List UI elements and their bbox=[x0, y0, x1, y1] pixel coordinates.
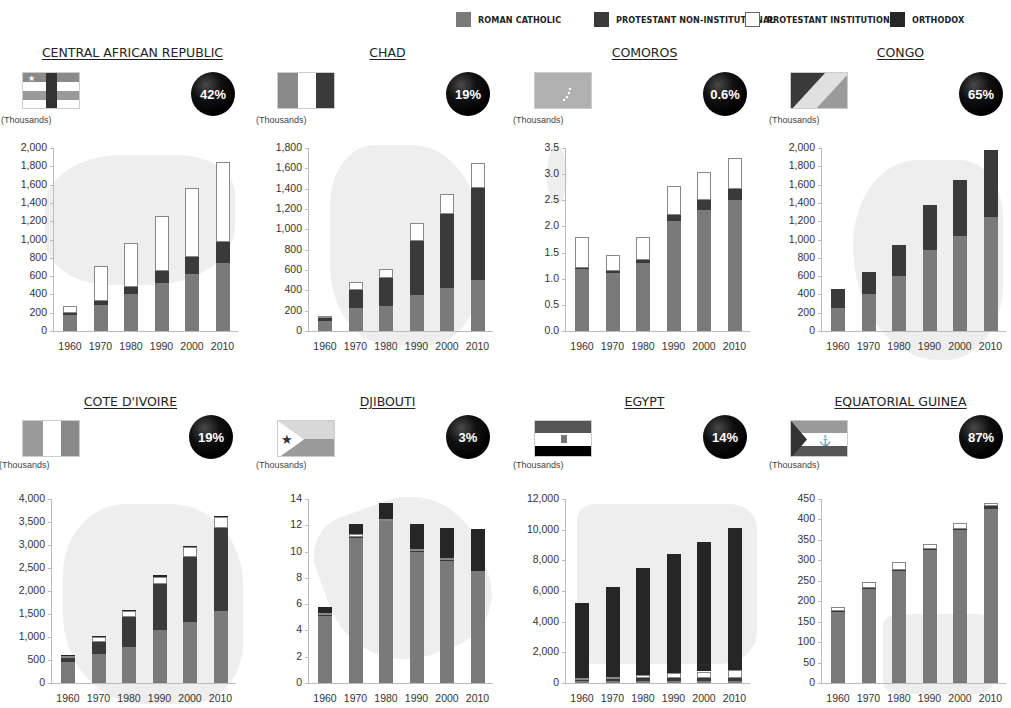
bar-segment-protestant-institutional bbox=[216, 162, 230, 243]
legend-label: ROMAN CATHOLIC bbox=[478, 15, 561, 25]
bar-segment-orthodox bbox=[183, 546, 197, 547]
y-tick-mark bbox=[562, 174, 565, 175]
y-tick-mark bbox=[305, 578, 308, 579]
bar-segment-roman-catholic bbox=[349, 308, 363, 331]
bar-segment-orthodox bbox=[606, 587, 620, 677]
y-tick-label: 2.0 bbox=[517, 219, 559, 231]
y-tick-mark bbox=[305, 168, 308, 169]
x-tick-label: 1960 bbox=[53, 692, 83, 704]
bar-segment-protestant-non-institutional bbox=[728, 678, 742, 681]
y-tick-mark bbox=[50, 166, 53, 167]
bar-segment-orthodox bbox=[318, 607, 332, 614]
percent-badge: 42% bbox=[191, 72, 235, 116]
bar-segment-protestant-institutional bbox=[410, 549, 424, 551]
y-tick-mark bbox=[562, 530, 565, 531]
y-tick-label: 600 bbox=[773, 269, 815, 281]
x-tick-label: 2010 bbox=[463, 692, 493, 704]
x-tick-label: 2010 bbox=[463, 340, 493, 352]
chart-panel-cote-divoire: COTE D'IVOIRE19%(Thousands)05001,0001,50… bbox=[3, 394, 258, 708]
bar-segment-orthodox bbox=[697, 542, 711, 672]
y-tick-mark bbox=[50, 276, 53, 277]
y-tick-mark bbox=[305, 657, 308, 658]
y-tick-label: 1,000 bbox=[260, 222, 302, 234]
bar-segment-protestant-non-institutional bbox=[667, 215, 681, 221]
x-tick-label: 2000 bbox=[945, 340, 975, 352]
bar-2000 bbox=[953, 499, 967, 683]
units-label: (Thousands) bbox=[769, 115, 820, 125]
x-tick-label: 1960 bbox=[567, 692, 597, 704]
x-tick-label: 2000 bbox=[945, 692, 975, 704]
y-tick-label: 3,000 bbox=[3, 538, 45, 550]
chart-title-text: EGYPT bbox=[625, 394, 665, 409]
percent-badge: 0.6% bbox=[703, 72, 747, 116]
bar-segment-protestant-non-institutional bbox=[92, 642, 106, 654]
y-tick-mark bbox=[305, 525, 308, 526]
y-tick-label: 200 bbox=[5, 306, 47, 318]
legend-item-orthodox: ORTHODOX bbox=[890, 12, 964, 27]
bar-segment-protestant-institutional bbox=[183, 547, 197, 557]
y-tick-label: 0 bbox=[260, 676, 302, 688]
y-tick-mark bbox=[305, 189, 308, 190]
legend-item-roman-catholic: ROMAN CATHOLIC bbox=[456, 12, 561, 27]
chart-title: CONGO bbox=[773, 45, 1011, 60]
bar-segment-orthodox bbox=[153, 575, 167, 576]
bar-segment-orthodox bbox=[728, 528, 742, 670]
x-tick-label: 1980 bbox=[628, 340, 658, 352]
bar-2000 bbox=[440, 148, 454, 331]
bar-segment-protestant-non-institutional bbox=[892, 245, 906, 276]
y-tick-mark bbox=[48, 499, 51, 500]
bar-segment-protestant-institutional bbox=[155, 216, 169, 271]
chart-title-text: CHAD bbox=[369, 45, 405, 60]
x-axis bbox=[51, 683, 236, 684]
bar-segment-orthodox bbox=[122, 610, 136, 611]
x-tick-label: 1990 bbox=[402, 692, 432, 704]
y-tick-label: 4,000 bbox=[517, 615, 559, 627]
bar-segment-roman-catholic bbox=[318, 321, 332, 331]
chart-title-text: DJIBOUTI bbox=[360, 394, 416, 409]
x-tick-label: 1970 bbox=[854, 692, 884, 704]
y-tick-mark bbox=[305, 604, 308, 605]
y-tick-label: 0 bbox=[773, 676, 815, 688]
bar-segment-roman-catholic bbox=[61, 662, 75, 683]
y-tick-label: 400 bbox=[5, 287, 47, 299]
legend: ROMAN CATHOLIC PROTESTANT NON-INSTITUTIO… bbox=[0, 12, 1011, 32]
y-axis bbox=[821, 148, 822, 331]
legend-label: PROTESTANT INSTITUTIONAL bbox=[767, 15, 901, 25]
legend-label: ORTHODOX bbox=[912, 15, 964, 25]
y-tick-mark bbox=[48, 683, 51, 684]
bar-segment-protestant-institutional bbox=[153, 577, 167, 584]
bar-segment-protestant-non-institutional bbox=[63, 313, 77, 315]
y-tick-mark bbox=[562, 683, 565, 684]
chart-panel-central-african-republic: CENTRAL AFRICAN REPUBLIC★42%(Thousands)0… bbox=[5, 45, 260, 395]
bar-segment-protestant-institutional bbox=[379, 519, 393, 521]
y-tick-label: 12 bbox=[260, 518, 302, 530]
bar-segment-roman-catholic bbox=[831, 611, 845, 683]
y-tick-mark bbox=[48, 568, 51, 569]
y-tick-label: 10 bbox=[260, 545, 302, 557]
y-tick-mark bbox=[50, 294, 53, 295]
bar-segment-protestant-non-institutional bbox=[216, 242, 230, 263]
legend-swatch-roman-catholic bbox=[456, 12, 471, 27]
chart-panel-chad: CHAD19%(Thousands)02004006008001,0001,20… bbox=[260, 45, 515, 395]
y-tick-label: 8,000 bbox=[517, 553, 559, 565]
bar-2010 bbox=[984, 148, 998, 331]
y-tick-mark bbox=[562, 279, 565, 280]
bar-segment-roman-catholic bbox=[728, 200, 742, 331]
flag-icon bbox=[534, 72, 592, 109]
x-tick-label: 2000 bbox=[175, 692, 205, 704]
y-tick-label: 200 bbox=[260, 304, 302, 316]
bar-2000 bbox=[953, 148, 967, 331]
bar-segment-protestant-institutional bbox=[440, 194, 454, 214]
x-tick-label: 1980 bbox=[371, 340, 401, 352]
x-tick-label: 2010 bbox=[976, 340, 1006, 352]
x-tick-label: 1970 bbox=[341, 692, 371, 704]
y-axis bbox=[308, 499, 309, 683]
bar-segment-orthodox bbox=[636, 568, 650, 675]
bar-segment-orthodox bbox=[379, 503, 393, 519]
units-label: (Thousands) bbox=[513, 115, 564, 125]
x-tick-label: 1960 bbox=[310, 692, 340, 704]
bar-segment-roman-catholic bbox=[440, 561, 454, 683]
y-tick-label: 1,000 bbox=[773, 233, 815, 245]
y-tick-mark bbox=[562, 200, 565, 201]
y-tick-mark bbox=[50, 221, 53, 222]
